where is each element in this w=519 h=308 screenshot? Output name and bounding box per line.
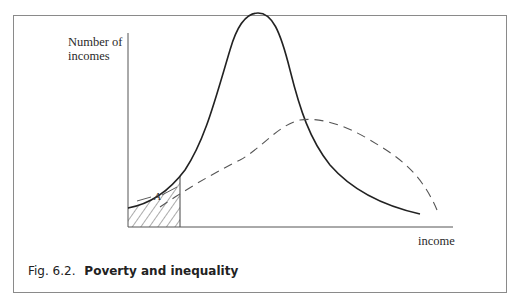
figure-number: Fig. 6.2. (28, 264, 76, 278)
figure-title: Poverty and inequality (84, 264, 238, 278)
y-axis-label-line2: incomes (68, 49, 123, 63)
svg-text:A: A (153, 190, 161, 202)
figure-caption: Fig. 6.2. Poverty and inequality (28, 264, 238, 278)
solid-distribution-curve (128, 13, 420, 214)
y-axis-label-line1: Number of (68, 35, 123, 49)
y-axis-label: Number of incomes (68, 35, 123, 63)
x-axis-label: income (418, 234, 455, 249)
dashed-distribution-curve (160, 119, 437, 210)
